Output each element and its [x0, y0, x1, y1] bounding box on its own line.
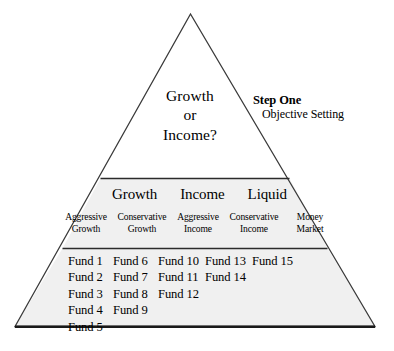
subcolumn-aggressive-income: Aggressive Income — [170, 211, 226, 234]
tier-top-question: Growth or Income? — [133, 86, 247, 144]
fund-list-row: Fund 1 Fund 2 Fund 3 Fund 4 Fund 5 Fund … — [68, 253, 348, 335]
fund-item: Fund 8 — [113, 286, 158, 302]
pyramid-text-layer: Growth or Income? Step One Objective Set… — [0, 0, 394, 351]
step-one-description: Objective Setting — [262, 107, 385, 121]
fund-item: Fund 11 — [158, 269, 205, 285]
fund-column-conservative-growth: Fund 6 Fund 7 Fund 8 Fund 9 — [113, 253, 158, 319]
subcolumn-conservative-growth: Conservative Growth — [114, 211, 170, 234]
subcolumn-line-2: Market — [282, 223, 338, 235]
apex-line-1: Growth — [133, 86, 247, 105]
subcolumn-line-1: Aggressive — [170, 211, 226, 223]
fund-item: Fund 6 — [113, 253, 158, 269]
category-liquid: Liquid — [248, 186, 287, 203]
subcolumn-line-1: Money — [282, 211, 338, 223]
fund-column-aggressive-growth: Fund 1 Fund 2 Fund 3 Fund 4 Fund 5 — [68, 253, 113, 335]
subcolumn-line-2: Growth — [114, 223, 170, 235]
subcolumn-conservative-income: Conservative Income — [226, 211, 282, 234]
step-one-label: Step One — [253, 93, 385, 107]
subcolumn-line-2: Growth — [58, 223, 114, 235]
subcolumn-aggressive-growth: Aggressive Growth — [58, 211, 114, 234]
investment-pyramid-diagram: Growth or Income? Step One Objective Set… — [0, 0, 394, 351]
category-income: Income — [180, 186, 224, 203]
fund-item: Fund 13 — [205, 253, 252, 269]
category-header-row: Growth Income Liquid — [112, 186, 287, 203]
fund-item: Fund 14 — [205, 269, 252, 285]
subcolumn-header-row: Aggressive Growth Conservative Growth Ag… — [58, 211, 338, 234]
fund-item: Fund 1 — [68, 253, 113, 269]
fund-column-money-market: Fund 15 — [252, 253, 299, 269]
subcolumn-line-1: Conservative — [226, 211, 282, 223]
apex-line-3: Income? — [133, 125, 247, 144]
subcolumn-money-market: Money Market — [282, 211, 338, 234]
fund-item: Fund 7 — [113, 269, 158, 285]
subcolumn-line-1: Conservative — [114, 211, 170, 223]
fund-item: Fund 10 — [158, 253, 205, 269]
fund-item: Fund 15 — [252, 253, 299, 269]
subcolumn-line-2: Income — [226, 223, 282, 235]
category-growth: Growth — [112, 186, 157, 203]
apex-line-2: or — [133, 105, 247, 124]
fund-column-conservative-income: Fund 13 Fund 14 — [205, 253, 252, 286]
fund-column-aggressive-income: Fund 10 Fund 11 Fund 12 — [158, 253, 205, 302]
fund-item: Fund 5 — [68, 319, 113, 335]
subcolumn-line-1: Aggressive — [58, 211, 114, 223]
step-one-callout: Step One Objective Setting — [253, 93, 385, 122]
fund-item: Fund 4 — [68, 302, 113, 318]
fund-item: Fund 3 — [68, 286, 113, 302]
fund-item: Fund 9 — [113, 302, 158, 318]
fund-item: Fund 12 — [158, 286, 205, 302]
subcolumn-line-2: Income — [170, 223, 226, 235]
fund-item: Fund 2 — [68, 269, 113, 285]
